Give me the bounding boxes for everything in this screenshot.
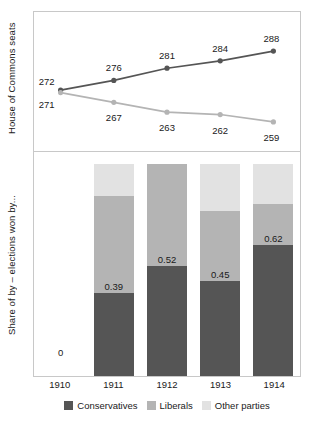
data-point <box>111 78 116 83</box>
bar-segment-conservatives <box>200 281 240 376</box>
data-point-label: 284 <box>212 42 228 53</box>
data-point-label: 271 <box>39 98 55 109</box>
data-point <box>58 90 63 95</box>
data-point <box>218 58 223 63</box>
bar-segment-other-parties <box>253 164 293 204</box>
data-point-label: 263 <box>159 122 175 133</box>
chart-figure: House of Commons seats Share of by – ele… <box>0 0 309 423</box>
bar-value-label: 0.62 <box>264 233 283 244</box>
y-axis-title-bottom: Share of by – elections won by... <box>6 160 17 370</box>
x-tick-label: 1913 <box>210 379 231 390</box>
legend-label: Conservatives <box>77 400 137 411</box>
bar-zero-label: 0 <box>58 347 63 358</box>
legend-swatch-icon <box>64 401 73 410</box>
stacked-bar <box>147 164 187 376</box>
x-tick-label: 1912 <box>156 379 177 390</box>
bar-value-label: 0.45 <box>211 269 230 280</box>
bar-segment-liberals <box>147 164 187 266</box>
y-axis-title-top: House of Commons seats <box>6 8 17 148</box>
bar-plot-area: 00.390.520.450.62 <box>34 152 300 376</box>
stacked-bar <box>94 164 134 376</box>
bar-segment-other-parties <box>200 164 240 211</box>
data-point <box>164 110 169 115</box>
data-point <box>164 66 169 71</box>
chart-legend: ConservativesLiberalsOther parties <box>33 397 301 413</box>
bar-value-label: 0.39 <box>105 281 124 292</box>
line-plot-area: 272276281284288271267263262259 <box>34 12 300 151</box>
data-point-label: 267 <box>106 112 122 123</box>
bar-segment-conservatives <box>147 266 187 376</box>
data-point <box>271 119 276 124</box>
bar-segment-conservatives <box>94 293 134 376</box>
legend-swatch-icon <box>202 401 211 410</box>
data-point-label: 281 <box>159 50 175 61</box>
data-point-label: 276 <box>106 62 122 73</box>
legend-item-conservatives[interactable]: Conservatives <box>64 400 137 411</box>
bar-chart-panel: 00.390.520.450.62 <box>33 151 301 377</box>
x-tick-label: 1910 <box>49 379 70 390</box>
line-chart-panel: 272276281284288271267263262259 <box>33 11 301 151</box>
legend-swatch-icon <box>147 401 156 410</box>
legend-item-other-parties[interactable]: Other parties <box>202 400 270 411</box>
data-point <box>271 48 276 53</box>
bar-segment-conservatives <box>253 245 293 376</box>
data-point <box>111 100 116 105</box>
bar-value-label: 0.52 <box>158 254 177 265</box>
stacked-bar <box>253 164 293 376</box>
bar-segment-other-parties <box>94 164 134 196</box>
legend-item-liberals[interactable]: Liberals <box>147 400 193 411</box>
bar-segment-liberals <box>94 196 134 294</box>
data-point <box>218 112 223 117</box>
data-point-label: 262 <box>212 124 228 135</box>
x-tick-label: 1914 <box>264 379 285 390</box>
legend-label: Liberals <box>160 400 193 411</box>
x-axis: 19101911191219131914 <box>33 378 301 394</box>
data-point-label: 288 <box>263 33 279 44</box>
data-point-label: 272 <box>39 76 55 87</box>
x-tick-label: 1911 <box>103 379 123 390</box>
line-series-liberals <box>61 93 274 122</box>
legend-label: Other parties <box>215 400 270 411</box>
data-point-label: 259 <box>263 131 279 142</box>
